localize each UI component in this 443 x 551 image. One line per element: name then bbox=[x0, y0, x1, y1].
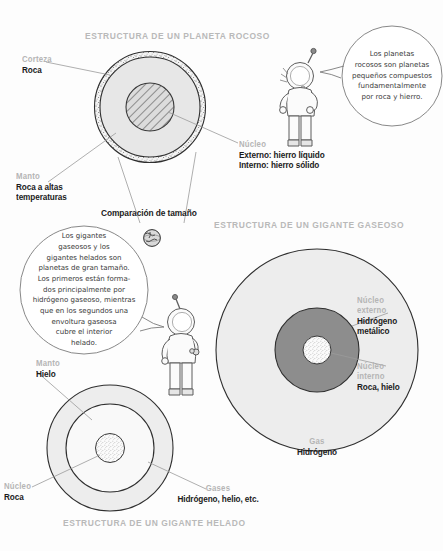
speech-bubble-giants-outline bbox=[20, 226, 164, 354]
label-icegiant-mantle-value: Hielo bbox=[36, 369, 60, 379]
label-gasgiant-gas-value: Hidrógeno bbox=[278, 447, 356, 457]
label-size-comparison: Comparación de tamaño bbox=[101, 208, 197, 218]
label-gasgiant-gas: Gas Hidrógeno bbox=[275, 437, 359, 457]
label-gasgiant-inner-core-key2: interno bbox=[357, 372, 400, 382]
label-icegiant-gases-value: Hidrógeno, helio, etc. bbox=[167, 494, 269, 504]
gasgiant-inner-core bbox=[303, 336, 331, 364]
gas-giant-diagram bbox=[216, 249, 418, 451]
label-rocky-core: Núcleo Externo: hierro líquido Interno: … bbox=[239, 140, 331, 171]
section-title-ice-giant: ESTRUCTURA DE UN GIGANTE HELADO bbox=[63, 518, 246, 528]
icegiant-core bbox=[96, 434, 125, 463]
label-gasgiant-gas-key: Gas bbox=[278, 437, 356, 447]
earth-globe-icon bbox=[144, 230, 161, 247]
label-rocky-crust-key: Corteza bbox=[22, 55, 52, 65]
label-gasgiant-outer-core: Núcleo externo Hidrógeno metálico bbox=[357, 296, 400, 337]
infographic-canvas: ESTRUCTURA DE UN PLANETA ROCOSO ESTRUCTU… bbox=[0, 0, 443, 551]
label-icegiant-gases-key: Gases bbox=[167, 484, 269, 494]
label-rocky-mantle-value: Roca a altas bbox=[16, 182, 67, 192]
leader-crust bbox=[46, 62, 110, 75]
label-gasgiant-inner-core: Núcleo interno Roca, hielo bbox=[357, 362, 403, 392]
label-icegiant-mantle-key: Manto bbox=[36, 359, 60, 369]
label-rocky-core-key: Núcleo bbox=[239, 140, 325, 150]
label-rocky-mantle: Manto Roca a altas temperaturas bbox=[16, 172, 71, 203]
label-rocky-crust: Corteza Roca bbox=[22, 55, 54, 75]
section-title-gas-giant: ESTRUCTURA DE UN GIGANTE GASEOSO bbox=[214, 220, 404, 230]
label-gasgiant-outer-core-value: Hidrógeno bbox=[357, 316, 397, 326]
label-rocky-core-value2: Interno: hierro sólido bbox=[239, 160, 325, 170]
label-rocky-crust-value: Roca bbox=[22, 65, 52, 75]
label-rocky-mantle-key: Manto bbox=[16, 172, 67, 182]
speech-bubble-rocky-outline bbox=[320, 26, 442, 126]
label-icegiant-core: Núcleo Roca bbox=[4, 482, 33, 502]
diagram-artwork bbox=[0, 0, 443, 551]
rocky-planet-diagram bbox=[46, 52, 238, 224]
label-icegiant-core-value: Roca bbox=[4, 492, 31, 502]
rocky-core bbox=[126, 83, 174, 131]
section-title-rocky: ESTRUCTURA DE UN PLANETA ROCOSO bbox=[85, 31, 270, 41]
astronaut-standing-figure bbox=[162, 295, 199, 396]
astronaut-waving-figure bbox=[280, 48, 318, 146]
label-icegiant-core-key: Núcleo bbox=[4, 482, 31, 492]
label-rocky-mantle-value2: temperaturas bbox=[16, 192, 67, 202]
label-rocky-core-value: Externo: hierro líquido bbox=[239, 150, 325, 160]
label-gasgiant-outer-core-value2: metálico bbox=[357, 326, 397, 336]
label-icegiant-mantle: Manto Hielo bbox=[36, 359, 62, 379]
label-gasgiant-outer-core-key2: externo bbox=[357, 306, 397, 316]
label-gasgiant-inner-core-value: Roca, hielo bbox=[357, 382, 400, 392]
label-icegiant-gases: Gases Hidrógeno, helio, etc. bbox=[163, 484, 273, 504]
